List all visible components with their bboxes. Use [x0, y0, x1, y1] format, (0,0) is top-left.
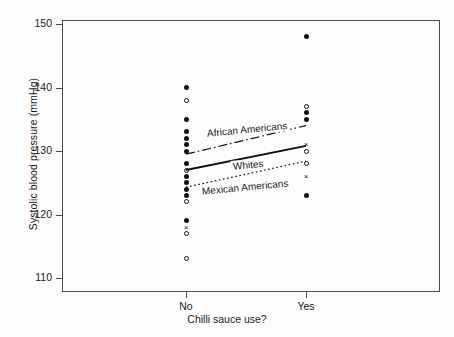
plot-area	[62, 20, 440, 292]
data-point-filled-circle	[304, 110, 309, 115]
data-point-filled-circle	[184, 142, 189, 147]
data-point-filled-circle	[184, 193, 189, 198]
data-point-filled-circle	[184, 149, 189, 154]
data-point-open-circle	[304, 104, 309, 109]
data-point-open-circle	[184, 98, 189, 103]
y-tick-label: 140	[0, 81, 52, 93]
data-point-cross: ×	[303, 140, 310, 149]
data-point-filled-circle	[184, 187, 189, 192]
x-axis-label: Chilli sauce use?	[0, 313, 454, 325]
data-point-filled-circle	[184, 136, 189, 141]
y-tick-mark	[56, 24, 62, 25]
y-tick-label: 150	[0, 17, 52, 29]
data-point-open-circle	[184, 168, 189, 173]
y-tick-mark	[56, 278, 62, 279]
x-tick-mark	[306, 292, 307, 298]
y-tick-label: 110	[0, 271, 52, 283]
data-point-open-circle	[184, 199, 189, 204]
data-point-open-circle	[184, 231, 189, 236]
data-point-filled-circle	[184, 85, 189, 90]
data-point-filled-circle	[304, 117, 309, 122]
y-tick-mark	[56, 215, 62, 216]
data-point-filled-circle	[184, 161, 189, 166]
data-point-open-circle	[304, 161, 309, 166]
y-tick-mark	[56, 151, 62, 152]
y-tick-label: 120	[0, 208, 52, 220]
data-point-filled-circle	[184, 174, 189, 179]
data-point-open-circle	[304, 149, 309, 154]
data-point-filled-circle	[184, 180, 189, 185]
y-tick-label: 130	[0, 144, 52, 156]
x-tick-label: Yes	[276, 300, 336, 312]
x-tick-mark	[186, 292, 187, 298]
data-point-filled-circle	[304, 193, 309, 198]
data-point-filled-circle	[304, 34, 309, 39]
x-tick-label: No	[156, 300, 216, 312]
data-point-filled-circle	[184, 117, 189, 122]
data-point-cross: ×	[303, 172, 310, 181]
y-tick-mark	[56, 88, 62, 89]
chart-figure: Systolic blood pressure (mmHg) Chilli sa…	[0, 0, 454, 337]
